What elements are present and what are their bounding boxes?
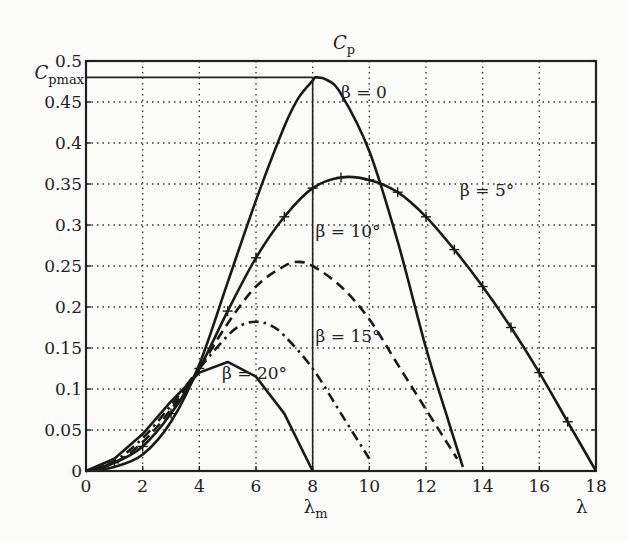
x-tick-label: 14 xyxy=(472,476,494,496)
x-tick-label: 8 xyxy=(307,476,318,496)
y-tick-label: 0.25 xyxy=(44,256,82,276)
x-tick-label: 12 xyxy=(415,476,437,496)
curve--0 xyxy=(86,77,463,471)
curve-label: β = 0 xyxy=(341,82,387,102)
curve-labels: β = 0β = 5°β = 10°β = 15°β = 20° xyxy=(222,82,514,383)
cp-lambda-chart: 02468101214161800.050.10.150.20.250.30.3… xyxy=(0,0,628,541)
y-tick-label: 0.2 xyxy=(55,297,82,317)
x-axis-title: λ xyxy=(576,496,587,517)
x-tick-label: 18 xyxy=(585,476,607,496)
lambda-m-label: λm xyxy=(304,496,328,521)
curve-label: β = 5° xyxy=(460,180,514,200)
y-tick-label: 0.1 xyxy=(55,379,82,399)
reference-lines xyxy=(86,77,313,471)
y-tick-label: 0.45 xyxy=(44,92,82,112)
x-tick-label: 6 xyxy=(251,476,262,496)
x-tick-label: 0 xyxy=(81,476,92,496)
y-tick-label: 0.3 xyxy=(55,215,82,235)
curves xyxy=(86,77,596,471)
chart-title: Cp xyxy=(333,32,355,57)
x-tick-label: 4 xyxy=(194,476,205,496)
curve-label: β = 15° xyxy=(316,326,381,346)
y-tick-label: 0.5 xyxy=(55,51,82,71)
x-tick-label: 10 xyxy=(359,476,381,496)
y-tick-label: 0.4 xyxy=(55,133,82,153)
y-tick-label: 0.15 xyxy=(44,338,82,358)
y-tick-label: 0.35 xyxy=(44,174,82,194)
curve-label: β = 10° xyxy=(316,221,381,241)
x-tick-label: 16 xyxy=(529,476,551,496)
x-tick-label: 2 xyxy=(137,476,148,496)
y-tick-label: 0 xyxy=(71,461,82,481)
y-tick-label: 0.05 xyxy=(44,420,82,440)
curve-markers xyxy=(109,172,572,467)
curve-label: β = 20° xyxy=(222,363,287,383)
